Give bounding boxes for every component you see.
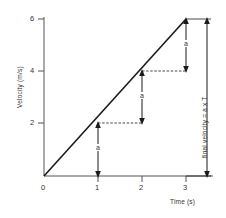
x-tick-label-2: 2 [139, 183, 143, 192]
y-axis-title: Velocity (m/s) [16, 66, 23, 108]
x-tick-label-0: 0 [41, 183, 45, 192]
bracket-arrowhead-down [204, 171, 210, 178]
x-tick-label-3: 3 [183, 183, 187, 192]
chart-svg [0, 0, 226, 218]
y-tick-label-4: 4 [30, 66, 34, 75]
step1-label-a: a [95, 144, 101, 151]
x-axis-title: Time (s) [170, 198, 195, 205]
x-tick-label-1: 1 [95, 183, 99, 192]
step2-arrowhead-down [139, 118, 145, 125]
bracket-arrowhead-up [204, 17, 210, 24]
step3-arrowhead-down [183, 66, 189, 73]
y-tick-label-6: 6 [30, 14, 34, 23]
step2-label-a: a [139, 92, 145, 99]
y-tick-label-2: 2 [30, 118, 34, 127]
velocity-time-chart: 6 4 2 0 1 2 3 Velocity (m/s) Time (s) a … [0, 0, 226, 218]
velocity-line [44, 19, 186, 176]
step1-arrowhead-down [95, 171, 101, 178]
step3-label-a: a [183, 40, 189, 47]
step1-arrowhead-up [95, 121, 101, 128]
final-velocity-label: final velocity = a x T [201, 96, 208, 158]
